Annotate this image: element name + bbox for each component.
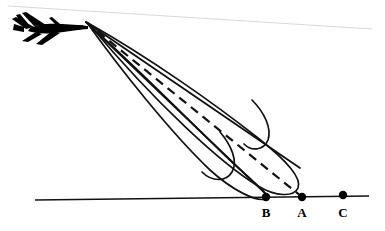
fighter-jet-silhouette [12,12,88,45]
ground-line [35,196,369,200]
figure-canvas: B A C [0,0,385,231]
upper-bound-ray [86,22,300,168]
center-aim-ray [86,22,302,197]
ground-point-label-b: B [256,206,276,219]
ground-point-label-a: A [292,206,312,219]
diagram-svg [0,0,385,231]
upper-hook-curve [244,100,269,149]
ground-point-b [262,193,270,201]
lower-bound-ray [86,22,268,196]
ground-point-c [339,191,347,199]
ground-point-a [298,193,306,201]
ground-point-label-c: C [333,206,353,219]
